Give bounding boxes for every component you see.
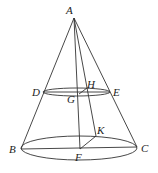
- segment-af: [74, 18, 80, 149]
- label-point-g: G: [67, 93, 75, 105]
- label-point-e: E: [112, 86, 120, 98]
- segment-ac: [74, 18, 137, 147]
- cone-diagram: ABCDEFGHK: [0, 0, 158, 173]
- label-point-k: K: [96, 124, 105, 136]
- label-point-d: D: [31, 86, 40, 98]
- cone-figure: ABCDEFGHK: [0, 0, 158, 173]
- label-point-f: F: [74, 151, 82, 163]
- label-point-b: B: [9, 143, 16, 155]
- line-segments: [21, 18, 137, 149]
- segment-fk: [80, 136, 96, 149]
- segment-bc: [21, 147, 137, 149]
- label-point-a: A: [65, 4, 73, 16]
- segment-gh: [79, 88, 87, 94]
- label-point-c: C: [141, 142, 149, 154]
- label-point-h: H: [86, 78, 96, 90]
- segment-ak: [74, 18, 96, 136]
- segment-ab: [21, 18, 74, 149]
